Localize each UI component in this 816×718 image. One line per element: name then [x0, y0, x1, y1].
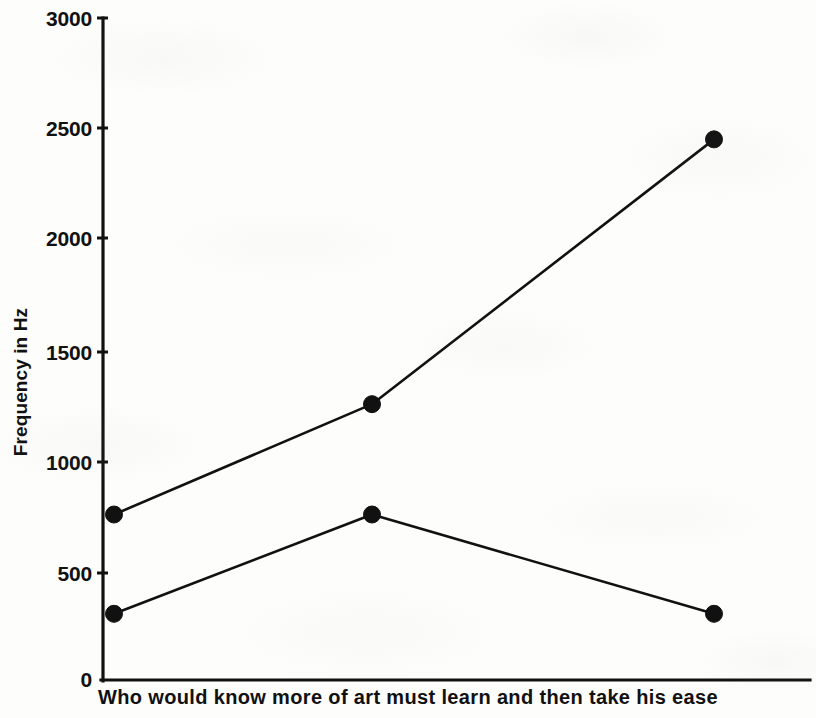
series-group — [106, 131, 723, 622]
y-tick-label-1500: 1500 — [46, 341, 92, 364]
figure-container: Frequency in Hz 3000 2500 2000 1500 1000… — [0, 0, 816, 718]
data-point-lower-contour-0 — [106, 605, 123, 622]
y-tick-label-3000: 3000 — [46, 7, 92, 30]
data-point-lower-contour-2 — [706, 605, 723, 622]
data-point-upper-contour-2 — [706, 131, 723, 148]
line-chart: Frequency in Hz 3000 2500 2000 1500 1000… — [0, 0, 816, 718]
y-axis-title: Frequency in Hz — [10, 308, 31, 456]
data-point-lower-contour-1 — [364, 506, 381, 523]
y-tick-label-2500: 2500 — [46, 117, 92, 140]
data-point-upper-contour-1 — [364, 396, 381, 413]
y-tick-label-1000: 1000 — [46, 451, 92, 474]
series-line-upper-contour — [114, 139, 714, 514]
x-axis-caption: Who would know more of art must learn an… — [98, 686, 718, 709]
series-line-lower-contour — [114, 515, 714, 614]
data-point-upper-contour-0 — [106, 506, 123, 523]
y-tick-label-500: 500 — [58, 562, 92, 585]
y-tick-label-2000: 2000 — [46, 227, 92, 250]
